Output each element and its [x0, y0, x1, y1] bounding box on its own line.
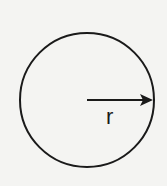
radius-label: r	[106, 104, 113, 130]
circle-diagram	[0, 0, 167, 186]
radius-arrow	[87, 94, 153, 106]
